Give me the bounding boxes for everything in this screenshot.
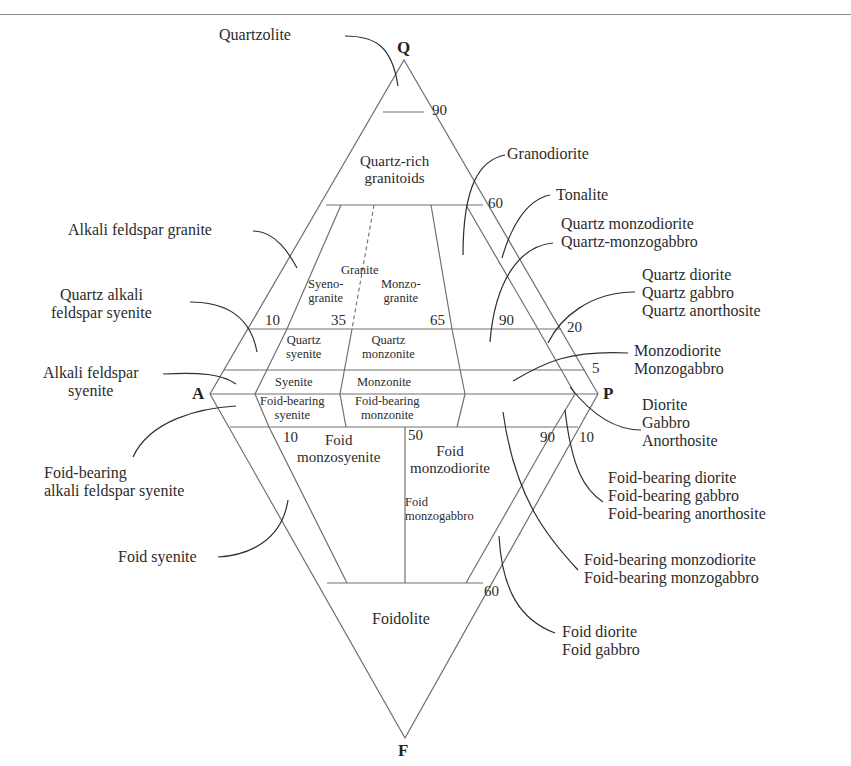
callout-alkali-feldspar-syenite: Alkali feldsparsyenite — [43, 364, 139, 400]
leader-foid-bearing-diorite — [565, 410, 603, 502]
tick-q20: 20 — [567, 319, 582, 336]
tick-p90: 90 — [499, 312, 514, 329]
callout-foid-bearing-alkali-feldspar-syenite: Foid-bearingalkali feldspar syenite — [44, 464, 184, 500]
vertex-p: P — [603, 384, 613, 403]
callout-quartzolite: Quartzolite — [219, 26, 291, 44]
callout-foid-bearing-monzodiorite: Foid-bearing monzodioriteFoid-bearing mo… — [584, 551, 759, 587]
p90-line — [466, 205, 575, 394]
callout-alkali-feldspar-granite: Alkali feldspar granite — [68, 221, 212, 239]
field-quartz-syenite: Quartzsyenite — [286, 333, 321, 361]
leader-quartz-alkali-feldspar-syenite — [190, 302, 257, 352]
tick-q90: 90 — [432, 102, 447, 119]
vertex-a: A — [192, 384, 204, 403]
tick-p35: 35 — [331, 312, 346, 329]
p65-line — [431, 205, 465, 394]
callout-quartz-diorite: Quartz dioriteQuartz gabbroQuartz anorth… — [642, 266, 761, 320]
callout-tonalite: Tonalite — [556, 186, 608, 204]
leader-monzodiorite — [513, 353, 628, 381]
field-monzonite: Monzonite — [357, 375, 411, 389]
tick-p10: 10 — [265, 312, 280, 329]
field-foid-monzosyenite: Foidmonzosyenite — [297, 432, 380, 466]
tick-f10-left: 10 — [283, 429, 298, 446]
field-foid-monzodiorite: Foidmonzodiorite — [410, 443, 490, 477]
tick-q60: 60 — [488, 195, 503, 212]
leader-alkali-feldspar-granite — [253, 231, 297, 268]
tick-p65: 65 — [430, 312, 445, 329]
leader-quartzolite — [345, 36, 398, 86]
leader-foid-diorite — [499, 536, 555, 633]
callout-quartz-monzodiorite: Quartz monzodioriteQuartz-monzogabbro — [561, 215, 698, 251]
tick-f60: 60 — [484, 583, 499, 600]
tick-f50: 50 — [408, 427, 423, 444]
leader-tonalite — [502, 195, 550, 258]
field-quartz-rich-granitoids: Quartz-richgranitoids — [360, 153, 429, 187]
field-syenogranite: Syeno-granite — [308, 277, 343, 305]
field-foidolite: Foidolite — [372, 610, 430, 628]
field-foid-bearing-syenite: Foid-bearingsyenite — [260, 394, 325, 422]
tick-q5: 5 — [592, 360, 600, 377]
tick-f90: 90 — [540, 429, 555, 446]
field-syenite: Syenite — [275, 375, 313, 389]
callout-foid-syenite: Foid syenite — [118, 548, 197, 566]
field-monzogranite: Monzo-granite — [381, 277, 421, 305]
callout-quartz-alkali-feldspar-syenite: Quartz alkalifeldspar syenite — [51, 286, 152, 322]
leader-quartz-diorite — [548, 292, 635, 343]
callout-diorite: DioriteGabbroAnorthosite — [642, 396, 718, 450]
callout-foid-bearing-diorite: Foid-bearing dioriteFoid-bearing gabbroF… — [608, 469, 766, 523]
field-quartz-monzonite: Quartzmonzonite — [362, 333, 415, 361]
field-foid-bearing-monzonite: Foid-bearingmonzonite — [355, 394, 420, 422]
tick-f10-right: 10 — [579, 429, 594, 446]
field-foid-monzogabbro: Foidmonzogabbro — [405, 495, 474, 523]
field-granite: Granite — [341, 263, 378, 277]
callout-monzodiorite: MonzodioriteMonzogabbro — [634, 342, 724, 378]
f-p90-line — [457, 394, 465, 427]
leader-alkali-feldspar-syenite — [163, 373, 236, 384]
leader-foid-syenite — [218, 500, 288, 557]
vertex-q: Q — [397, 38, 410, 57]
vertex-f: F — [398, 741, 408, 760]
callout-granodiorite: Granodiorite — [507, 145, 589, 163]
callout-foid-diorite: Foid dioriteFoid gabbro — [562, 623, 640, 659]
